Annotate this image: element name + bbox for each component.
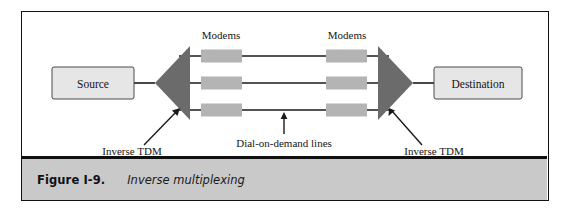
inverse-tdm-left-leader	[144, 111, 177, 145]
dial-on-demand-arrowhead	[281, 112, 288, 119]
inverse-tdm-right-label: Inverse TDM	[404, 145, 464, 155]
inverse-tdm-right-arrowhead	[389, 108, 396, 116]
modem-right-2	[326, 77, 367, 90]
source-box-label: Source	[77, 78, 109, 90]
modem-left-2	[201, 77, 242, 90]
modem-right-1	[326, 50, 367, 63]
modem-left-1	[201, 50, 242, 63]
inverse-multiplexing-diagram: Source Destination Modems Modems Dial-on…	[22, 12, 547, 155]
figure-root: Source Destination Modems Modems Dial-on…	[0, 0, 571, 214]
inverse-tdm-right-leader	[392, 111, 422, 145]
diagram-canvas: Source Destination Modems Modems Dial-on…	[22, 12, 547, 155]
figure-caption-title: Inverse multiplexing	[127, 173, 245, 187]
modems-right-label: Modems	[328, 29, 367, 41]
modems-left-label: Modems	[202, 29, 241, 41]
modem-left-3	[201, 104, 242, 117]
inverse-tdm-triangle-left	[155, 46, 190, 120]
inverse-tdm-left-label: Inverse TDM	[102, 145, 162, 155]
figure-frame: Source Destination Modems Modems Dial-on…	[21, 11, 549, 201]
modem-right-3	[326, 104, 367, 117]
figure-caption-bar: Figure I-9. Inverse multiplexing	[22, 156, 547, 200]
figure-caption-number: Figure I-9.	[37, 173, 105, 187]
destination-box-label: Destination	[451, 78, 504, 90]
inverse-tdm-triangle-right	[378, 46, 413, 120]
dial-on-demand-label: Dial-on-demand lines	[236, 137, 332, 149]
